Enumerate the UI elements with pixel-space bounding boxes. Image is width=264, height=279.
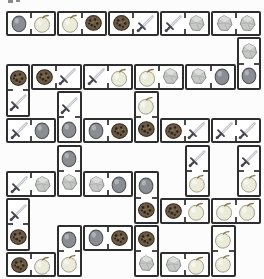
- tile-divider-mark: [158, 66, 160, 71]
- tile-divider-mark: [81, 29, 83, 34]
- apple-icon: [185, 200, 208, 222]
- tile-divider-mark: [30, 13, 32, 18]
- domino-plum-cookie[interactable]: [83, 225, 133, 251]
- apple-icon: [213, 227, 234, 251]
- tile-divider-mark: [210, 83, 212, 88]
- domino-stone-plum[interactable]: [237, 37, 262, 90]
- cookie-icon: [162, 120, 185, 142]
- tile-divider-mark: [107, 173, 109, 178]
- domino-apple-cookie[interactable]: [57, 11, 107, 37]
- domino-sword-apple[interactable]: [237, 145, 262, 198]
- plum-icon: [108, 173, 131, 195]
- sword-icon: [185, 120, 208, 142]
- cookie-icon: [8, 224, 29, 248]
- stone-icon: [236, 13, 259, 35]
- tile-divider-mark: [235, 217, 237, 222]
- tile-divider-mark: [213, 250, 218, 252]
- domino-cookie-sword[interactable]: [31, 64, 81, 90]
- domino-sword-apple[interactable]: [83, 64, 133, 90]
- domino-apple-stone[interactable]: [134, 64, 184, 90]
- domino-plum-cookie[interactable]: [134, 171, 159, 224]
- cookie-icon: [33, 66, 56, 88]
- domino-cookie-apple[interactable]: [160, 198, 210, 224]
- sword-icon: [8, 90, 29, 114]
- domino-apple-apple[interactable]: [211, 198, 261, 224]
- domino-stone-apple[interactable]: [160, 252, 210, 278]
- plum-icon: [31, 120, 54, 142]
- apple-icon: [213, 251, 234, 275]
- apple-icon: [59, 13, 82, 35]
- cookie-icon: [8, 66, 29, 90]
- plum-icon: [136, 173, 157, 197]
- sword-icon: [8, 173, 31, 195]
- domino-plum-stone[interactable]: [57, 145, 82, 198]
- tile-divider-mark: [235, 120, 237, 125]
- domino-stone-stone[interactable]: [211, 11, 261, 37]
- tile-divider-mark: [158, 83, 160, 88]
- domino-stone-plum[interactable]: [185, 64, 235, 90]
- sword-icon: [8, 120, 31, 142]
- domino-sword-cookie[interactable]: [6, 198, 31, 251]
- domino-cookie-apple[interactable]: [6, 252, 56, 278]
- tile-divider-mark: [229, 250, 234, 252]
- tile-divider-mark: [30, 173, 32, 178]
- cookie-icon: [136, 227, 157, 251]
- tile-divider-mark: [75, 116, 80, 118]
- tile-divider-mark: [23, 89, 28, 91]
- stone-icon: [213, 13, 236, 35]
- domino-cookie-sword[interactable]: [6, 64, 31, 117]
- domino-cookie-sword[interactable]: [108, 11, 158, 37]
- domino-sword-plum[interactable]: [57, 91, 82, 144]
- tile-divider-mark: [132, 13, 134, 18]
- tile-divider-mark: [107, 66, 109, 71]
- tile-divider-mark: [30, 136, 32, 141]
- tile-divider-mark: [184, 13, 186, 18]
- tile-divider-mark: [184, 29, 186, 34]
- domino-plum-apple[interactable]: [6, 11, 56, 37]
- sword-icon: [134, 13, 157, 35]
- plum-icon: [59, 117, 80, 141]
- domino-cookie-stone[interactable]: [134, 225, 159, 278]
- domino-sword-sword[interactable]: [211, 118, 261, 144]
- domino-plum-cookie[interactable]: [83, 118, 133, 144]
- domino-sword-stone[interactable]: [6, 171, 56, 197]
- stone-icon: [31, 173, 54, 195]
- tile-divider-mark: [254, 63, 259, 65]
- tile-divider-mark: [30, 254, 32, 259]
- sword-icon: [56, 66, 79, 88]
- tile-divider-mark: [59, 170, 64, 172]
- plum-icon: [85, 227, 108, 249]
- apple-icon: [187, 171, 208, 195]
- domino-sword-plum[interactable]: [6, 118, 56, 144]
- cookie-icon: [110, 13, 133, 35]
- cookie-icon: [162, 200, 185, 222]
- tile-divider-mark: [8, 89, 13, 91]
- tile-divider-mark: [203, 170, 208, 172]
- tile-divider-mark: [239, 63, 244, 65]
- apple-icon: [31, 254, 54, 276]
- tile-divider-mark: [81, 13, 83, 18]
- cookie-icon: [136, 117, 157, 141]
- tile-divider-mark: [107, 136, 109, 141]
- domino-apple-cookie[interactable]: [134, 91, 159, 144]
- apple-icon: [213, 200, 236, 222]
- tile-divider-mark: [235, 136, 237, 141]
- domino-cookie-sword[interactable]: [160, 118, 210, 144]
- cookie-icon: [82, 13, 105, 35]
- sword-icon: [213, 120, 236, 142]
- sword-icon: [236, 120, 259, 142]
- cookie-icon: [108, 227, 131, 249]
- tile-divider-mark: [30, 120, 32, 125]
- apple-icon: [108, 66, 131, 88]
- stone-icon: [187, 66, 210, 88]
- domino-apple-apple[interactable]: [211, 225, 236, 278]
- domino-sword-apple[interactable]: [185, 145, 210, 198]
- domino-plum-apple[interactable]: [57, 225, 82, 278]
- tile-divider-mark: [107, 244, 109, 249]
- domino-game-board: [0, 0, 264, 279]
- domino-sword-stone[interactable]: [160, 11, 210, 37]
- domino-stone-plum[interactable]: [83, 171, 133, 197]
- plum-icon: [59, 227, 80, 251]
- stone-icon: [239, 39, 260, 63]
- tile-divider-mark: [254, 170, 259, 172]
